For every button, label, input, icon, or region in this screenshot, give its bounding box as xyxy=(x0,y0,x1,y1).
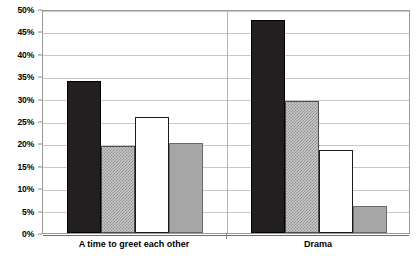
y-axis-tick-label: 10% xyxy=(18,184,34,194)
bar-drama-series-3 xyxy=(319,150,353,233)
y-axis-tick-label: 30% xyxy=(18,95,34,105)
y-axis-tick-label: 20% xyxy=(18,139,34,149)
category-tick-mark xyxy=(226,234,227,239)
y-axis-tick-label: 0% xyxy=(22,229,34,239)
bar-chart: 0%5%10%15%20%25%30%35%40%45%50% A time t… xyxy=(0,0,416,259)
y-axis-tick-label: 25% xyxy=(18,117,34,127)
y-axis: 0%5%10%15%20%25%30%35%40%45%50% xyxy=(0,0,42,259)
category-separator xyxy=(227,11,228,233)
plot-area xyxy=(42,10,410,234)
y-axis-tick-label: 50% xyxy=(18,5,34,15)
bar-drama-series-2 xyxy=(285,101,319,233)
bar-a-time-to-greet-each-other-series-3 xyxy=(135,117,169,233)
bar-a-time-to-greet-each-other-series-1 xyxy=(67,81,101,233)
bar-drama-series-4 xyxy=(353,206,387,233)
y-axis-tick-label: 15% xyxy=(18,162,34,172)
x-axis-category-label: Drama xyxy=(304,239,332,249)
gridline-35% xyxy=(43,78,409,79)
bar-a-time-to-greet-each-other-series-2 xyxy=(101,146,135,233)
bar-a-time-to-greet-each-other-series-4 xyxy=(169,143,203,233)
y-axis-tick-label: 35% xyxy=(18,72,34,82)
gridline-40% xyxy=(43,55,409,56)
gridline-45% xyxy=(43,33,409,34)
x-axis-category-label: A time to greet each other xyxy=(79,239,190,249)
gridline-50% xyxy=(43,11,409,12)
bar-drama-series-1 xyxy=(251,20,285,233)
y-axis-tick-label: 45% xyxy=(18,27,34,37)
y-axis-tick-label: 5% xyxy=(22,207,34,217)
y-axis-tick-label: 40% xyxy=(18,50,34,60)
